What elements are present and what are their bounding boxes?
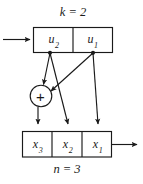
cell-base-u2: u: [49, 32, 55, 46]
cell-label-x1: x1: [83, 138, 112, 153]
cell-sub-u2: 2: [55, 41, 59, 50]
adder-plus-icon: +: [36, 89, 45, 104]
tap-u2-to-x2: [50, 53, 68, 124]
cell-sub-x1: 1: [99, 146, 103, 155]
cell-base-x1: x: [93, 137, 98, 151]
shift-register-diagram: k = 2 u2 u1 + x3 x2 x1 n = 3: [0, 0, 143, 184]
cell-sub-u1: 1: [94, 41, 98, 50]
n-parameter-label: n = 3: [22, 163, 112, 176]
tap-dot-u2: [48, 51, 52, 55]
cell-base-u1: u: [88, 32, 94, 46]
cell-label-x2: x2: [53, 138, 82, 153]
tap-u2-to-adder: [44, 53, 51, 85]
cell-sub-x3: 3: [39, 146, 43, 155]
cell-label-u2: u2: [34, 33, 73, 48]
diagram-canvas: [0, 0, 143, 184]
tap-u1-to-adder: [51, 53, 93, 91]
tap-dot-u1: [91, 51, 95, 55]
k-parameter-label: k = 2: [33, 6, 113, 19]
tap-u1-to-x1: [93, 53, 98, 124]
cell-label-x3: x3: [23, 138, 52, 153]
cell-base-x3: x: [33, 137, 38, 151]
cell-base-x2: x: [63, 137, 68, 151]
cell-sub-x2: 2: [69, 146, 73, 155]
cell-label-u1: u1: [73, 33, 112, 48]
